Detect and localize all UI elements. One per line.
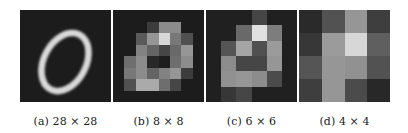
pixel-cell (170, 68, 181, 80)
pixel-cell (124, 10, 135, 22)
pixel-cell (282, 25, 297, 40)
pixel-cell (299, 56, 322, 79)
pixel-cell (124, 45, 135, 57)
pixel-cell (113, 79, 124, 91)
pixel-cell (282, 41, 297, 56)
pixel-cell (221, 56, 236, 71)
pixel-cell (299, 33, 322, 56)
pixel-grid-8x8 (113, 10, 204, 102)
pixel-cell (193, 45, 204, 57)
pixel-cell (136, 33, 147, 45)
pixel-cell (322, 10, 345, 33)
pixel-cell (252, 56, 267, 71)
pixel-cell (113, 22, 124, 34)
pixel-cell (170, 45, 181, 57)
pixel-cell (267, 71, 282, 86)
pixel-cell (147, 33, 158, 45)
pixel-cell (193, 33, 204, 45)
pixel-cell (159, 79, 170, 91)
pixel-grid-6x6 (206, 10, 297, 102)
pixel-cell (322, 56, 345, 79)
pixel-cell (345, 56, 368, 79)
pixel-cell (367, 79, 390, 102)
pixel-cell (193, 56, 204, 68)
pixel-cell (252, 87, 267, 102)
pixel-cell (113, 91, 124, 103)
pixel-cell (181, 56, 192, 68)
pixel-cell (170, 91, 181, 103)
caption-d: (d) 4 × 4 (299, 115, 390, 128)
pixel-cell (236, 87, 251, 102)
pixel-cell (221, 71, 236, 86)
pixel-cell (159, 10, 170, 22)
pixel-cell (170, 56, 181, 68)
pixel-cell (181, 10, 192, 22)
caption-a: (a) 28 × 28 (20, 115, 111, 128)
pixel-cell (206, 10, 221, 25)
pixel-cell (206, 71, 221, 86)
pixel-cell (147, 68, 158, 80)
pixel-cell (221, 41, 236, 56)
pixel-cell (221, 25, 236, 40)
pixel-cell (252, 25, 267, 40)
pixel-cell (147, 10, 158, 22)
pixel-cell (170, 22, 181, 34)
caption-c: (c) 6 × 6 (206, 115, 297, 128)
pixel-cell (322, 33, 345, 56)
pixel-cell (124, 91, 135, 103)
pixel-cell (267, 87, 282, 102)
pixel-cell (181, 79, 192, 91)
pixel-cell (367, 33, 390, 56)
pixel-cell (147, 56, 158, 68)
pixel-cell (267, 25, 282, 40)
pixel-cell (206, 25, 221, 40)
pixel-cell (136, 56, 147, 68)
pixel-cell (221, 10, 236, 25)
pixel-cell (181, 91, 192, 103)
pixel-cell (367, 10, 390, 33)
pixel-cell (282, 56, 297, 71)
pixel-cell (267, 10, 282, 25)
pixel-cell (181, 22, 192, 34)
pixel-cell (193, 91, 204, 103)
pixel-cell (221, 87, 236, 102)
pixel-cell (113, 56, 124, 68)
pixel-cell (193, 10, 204, 22)
pixel-cell (136, 22, 147, 34)
pixel-cell (136, 45, 147, 57)
pixel-cell (170, 10, 181, 22)
pixel-cell (236, 41, 251, 56)
pixel-cell (147, 45, 158, 57)
handwritten-zero-icon (20, 10, 111, 102)
pixel-cell (193, 79, 204, 91)
pixel-cell (252, 41, 267, 56)
pixel-cell (136, 68, 147, 80)
pixel-cell (159, 22, 170, 34)
pixel-cell (236, 10, 251, 25)
pixel-cell (159, 33, 170, 45)
pixel-cell (113, 45, 124, 57)
pixel-cell (124, 68, 135, 80)
pixel-cell (282, 10, 297, 25)
pixel-cell (170, 79, 181, 91)
pixel-cell (113, 33, 124, 45)
pixel-cell (299, 10, 322, 33)
pixel-cell (236, 25, 251, 40)
pixel-cell (113, 68, 124, 80)
pixel-cell (206, 41, 221, 56)
pixel-cell (322, 79, 345, 102)
pixel-cell (206, 87, 221, 102)
downsampling-figure: (a) 28 × 28 (b) 8 × 8 (c) 6 × 6 (d) 4 × … (0, 0, 408, 133)
pixel-cell (113, 10, 124, 22)
pixel-cell (282, 87, 297, 102)
pixel-cell (367, 56, 390, 79)
pixel-cell (159, 56, 170, 68)
pixel-cell (159, 45, 170, 57)
pixel-cell (124, 22, 135, 34)
pixel-cell (193, 68, 204, 80)
pixel-cell (236, 71, 251, 86)
pixel-cell (147, 79, 158, 91)
pixel-cell (147, 91, 158, 103)
pixel-grid-4x4 (299, 10, 390, 102)
pixel-cell (159, 68, 170, 80)
